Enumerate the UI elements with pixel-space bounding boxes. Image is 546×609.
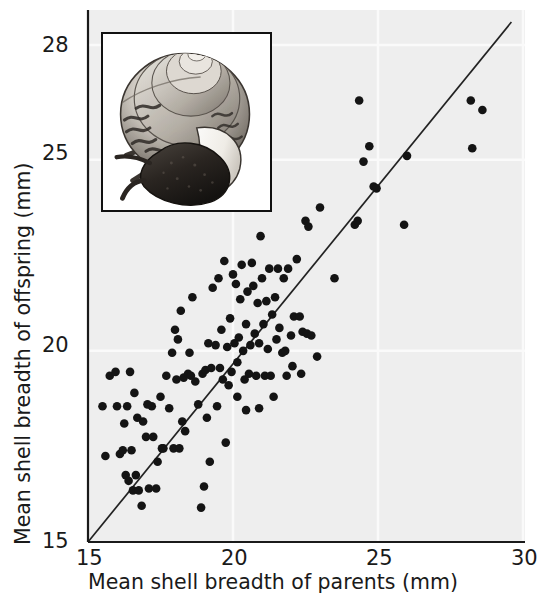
data-point (226, 314, 235, 323)
data-point (156, 392, 165, 401)
data-point (255, 339, 264, 348)
data-point (478, 106, 487, 115)
data-point (223, 343, 232, 352)
data-point (185, 348, 194, 357)
data-point (168, 348, 177, 357)
data-point (249, 282, 258, 291)
data-point (221, 438, 230, 447)
data-point (279, 274, 288, 283)
data-point (232, 280, 241, 289)
data-point (152, 484, 161, 493)
data-point (359, 157, 368, 166)
data-point (262, 297, 271, 306)
data-point (353, 217, 362, 226)
data-point (239, 347, 248, 356)
data-point (372, 184, 381, 193)
data-point (216, 364, 225, 373)
x-tick-20: 20 (221, 546, 248, 570)
data-point (165, 404, 174, 413)
data-point (101, 452, 110, 461)
data-point (253, 299, 262, 308)
data-point (271, 293, 280, 302)
data-point (293, 255, 302, 264)
data-point (304, 222, 313, 231)
data-point (197, 503, 206, 512)
data-point (252, 371, 261, 380)
data-point (123, 402, 132, 411)
data-point (143, 400, 152, 409)
data-point (206, 457, 215, 466)
data-point (266, 371, 275, 380)
data-point (236, 295, 245, 304)
x-tick-25: 25 (366, 546, 393, 570)
data-point (307, 331, 316, 340)
data-point (272, 335, 281, 344)
data-point (213, 402, 222, 411)
data-point (227, 368, 236, 377)
data-point (139, 417, 148, 426)
data-point (284, 264, 293, 273)
data-point (153, 457, 162, 466)
data-point (224, 381, 233, 390)
data-point (258, 274, 267, 283)
y-tick-25: 25 (42, 141, 69, 165)
data-point (127, 446, 136, 455)
data-point (282, 371, 291, 380)
data-point (98, 402, 107, 411)
data-point (268, 310, 277, 319)
data-point (191, 377, 200, 386)
data-point (330, 274, 339, 283)
data-point (400, 220, 409, 229)
data-point (242, 320, 251, 329)
data-point (295, 312, 304, 321)
data-point (256, 232, 265, 241)
data-point (365, 142, 374, 151)
data-point (220, 257, 229, 266)
snail-illustration-inset (101, 32, 272, 212)
data-point (194, 400, 203, 409)
data-point (259, 320, 268, 329)
data-point (217, 326, 226, 335)
data-point (207, 364, 216, 373)
y-axis-title: Mean shell breadth of offspring (mm) (11, 45, 35, 545)
data-point (177, 306, 186, 315)
data-point (265, 264, 274, 273)
data-point (174, 335, 183, 344)
data-point (245, 369, 254, 378)
y-tick-20: 20 (42, 333, 69, 357)
data-point (229, 270, 238, 279)
data-point (211, 341, 220, 350)
data-point (297, 369, 306, 378)
x-tick-30: 30 (511, 546, 538, 570)
data-point (203, 413, 212, 422)
data-point (237, 261, 246, 270)
y-tick-15: 15 (42, 529, 69, 553)
data-point (149, 433, 158, 442)
data-point (269, 392, 278, 401)
data-point (137, 501, 146, 510)
data-point (134, 486, 143, 495)
data-point (214, 274, 223, 283)
data-point (313, 352, 322, 361)
snail-drawing (103, 34, 270, 210)
scatter-plot (0, 0, 546, 609)
data-point (162, 371, 171, 380)
data-point (175, 444, 184, 453)
data-point (248, 259, 257, 268)
data-point (233, 358, 242, 367)
data-point (250, 329, 259, 338)
data-point (281, 347, 290, 356)
data-point (468, 144, 477, 153)
data-point (159, 444, 168, 453)
data-point (264, 345, 273, 354)
data-point (181, 427, 190, 436)
data-point (188, 293, 197, 302)
data-point (130, 389, 139, 398)
data-point (132, 471, 141, 480)
data-point (316, 203, 325, 212)
data-point (242, 406, 251, 415)
data-point (124, 477, 133, 486)
data-point (111, 368, 120, 377)
data-point (113, 402, 122, 411)
data-point (178, 417, 187, 426)
